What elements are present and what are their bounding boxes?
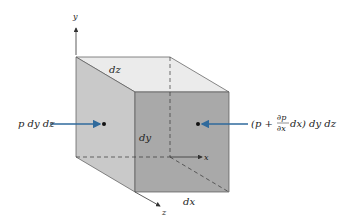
- dz-label: dz: [109, 64, 121, 75]
- right-force-prefix: (p +: [251, 118, 273, 129]
- left-force-label: p dy dz: [18, 118, 55, 129]
- dy-label: dy: [139, 132, 151, 143]
- right-force-frac-den: ∂x: [277, 124, 286, 133]
- z-axis: [135, 192, 160, 206]
- left-face-centroid-dot: [102, 122, 106, 126]
- front-face-centroid-dot: [196, 122, 200, 126]
- y-axis-label: y: [72, 12, 78, 21]
- right-force-frac-num: ∂p: [277, 113, 286, 122]
- cube-diagram: y x z dz dy dx p dy dz (p + ∂p ∂x dx) dy…: [0, 0, 340, 220]
- x-axis-label: x: [204, 153, 209, 162]
- z-axis-label: z: [161, 208, 167, 217]
- dx-label: dx: [183, 196, 195, 207]
- fluid-element-diagram: y x z dz dy dx p dy dz (p + ∂p ∂x dx) dy…: [0, 0, 340, 220]
- right-force-suffix: dx) dy dz: [290, 118, 337, 129]
